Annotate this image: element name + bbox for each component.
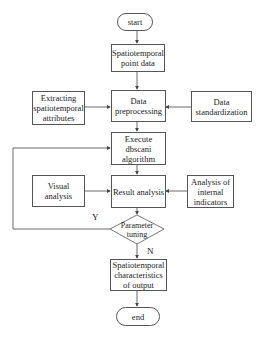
extracting-attributes-node: Extracting spatiotemporal attributes [32, 91, 85, 125]
yes-label: Y [92, 212, 99, 222]
end-node: end [116, 307, 160, 326]
output-characteristics-node: Spatiotemporal characteristics of output [110, 259, 167, 291]
data-standardization-node: Data standardization [191, 91, 252, 122]
data-preprocessing-node: Data preprocessing [111, 90, 166, 122]
start-node: start [117, 13, 153, 31]
internal-indicators-node: Analysis of internal indicators [187, 175, 234, 208]
parameter-tuning-label: Parameter tuning [112, 219, 162, 241]
execute-dbscani-node: Execute dbscani algorithm [111, 132, 166, 165]
result-analysis-node: Result analysis [111, 175, 166, 208]
point-data-node: Spatiotemporal point data [111, 44, 165, 72]
no-label: N [147, 246, 154, 256]
visual-analysis-node: Visual analysis [32, 175, 85, 207]
